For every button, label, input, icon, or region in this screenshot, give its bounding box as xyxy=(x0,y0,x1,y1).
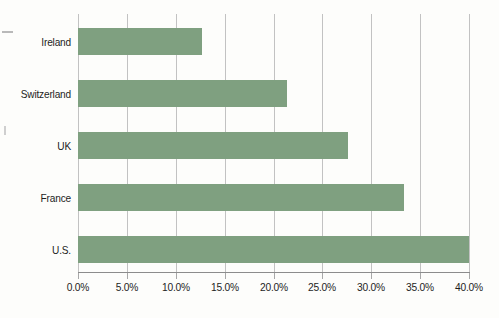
gridline xyxy=(469,14,470,272)
bar-row xyxy=(78,28,469,55)
bar-row xyxy=(78,184,469,211)
x-tick-label: 0.0% xyxy=(50,281,106,293)
category-label: Switzerland xyxy=(6,88,71,100)
x-tick-label: 10.0% xyxy=(148,281,204,293)
x-tick-label: 35.0% xyxy=(392,281,448,293)
x-tick-label: 30.0% xyxy=(343,281,399,293)
bar-row xyxy=(78,132,469,159)
x-tick-label: 25.0% xyxy=(294,281,350,293)
category-label: Ireland xyxy=(6,36,71,48)
bar-switzerland xyxy=(78,80,287,107)
x-tick-label: 20.0% xyxy=(246,281,302,293)
category-label: UK xyxy=(6,140,71,152)
x-tick-label: 5.0% xyxy=(99,281,155,293)
scan-artifact-dash xyxy=(2,31,13,33)
x-tick-label: 15.0% xyxy=(197,281,253,293)
axis-tick xyxy=(274,273,275,279)
x-tick-label: 40.0% xyxy=(441,281,497,293)
bar-france xyxy=(78,184,404,211)
axis-tick xyxy=(420,273,421,279)
category-label: U.S. xyxy=(6,244,71,256)
bar-row xyxy=(78,80,469,107)
axis-tick xyxy=(176,273,177,279)
axis-tick xyxy=(225,273,226,279)
axis-tick xyxy=(371,273,372,279)
bar-u-s xyxy=(78,236,469,263)
axis-tick xyxy=(322,273,323,279)
bar-uk xyxy=(78,132,348,159)
axis-tick xyxy=(78,273,79,279)
category-label: France xyxy=(6,192,71,204)
axis-tick xyxy=(469,273,470,279)
scan-artifact-tick xyxy=(4,126,6,135)
bar-row xyxy=(78,236,469,263)
bar-chart-figure: IrelandSwitzerlandUKFranceU.S. 0.0%5.0%1… xyxy=(0,0,499,318)
plot-area xyxy=(78,14,469,272)
bar-ireland xyxy=(78,28,202,55)
axis-tick xyxy=(127,273,128,279)
